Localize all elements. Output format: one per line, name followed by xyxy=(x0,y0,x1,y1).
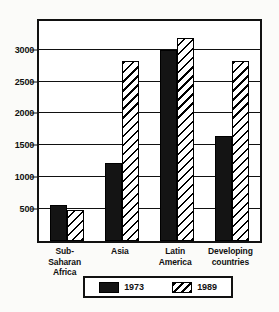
y-tick-label-2500: 2500 xyxy=(0,77,34,87)
gridline-3000 xyxy=(39,49,260,50)
bar-1973-cat3 xyxy=(215,136,232,241)
bar-1989-cat1 xyxy=(122,61,139,241)
y-tick-label-2000: 2000 xyxy=(0,108,34,118)
plot-area xyxy=(39,21,260,241)
legend-label-1989: 1989 xyxy=(197,282,217,292)
bar-1989-cat3 xyxy=(232,61,249,241)
gridline-2000 xyxy=(39,112,260,113)
y-tick-label-1500: 1500 xyxy=(0,140,34,150)
x-category-label-3: Developingcountries xyxy=(203,246,258,267)
y-tick-label-1000: 1000 xyxy=(0,172,34,182)
x-category-label-0: Sub-SaharanAfrica xyxy=(37,246,92,278)
bar-1989-cat2 xyxy=(177,38,194,241)
legend-label-1973: 1973 xyxy=(124,282,144,292)
legend-swatch-1989-icon xyxy=(172,282,192,293)
chart-figure: 50010001500200025003000 Sub-SaharanAfric… xyxy=(0,0,279,312)
plot-frame xyxy=(37,19,262,243)
y-tick-label-500: 500 xyxy=(0,204,34,214)
y-tick-label-3000: 3000 xyxy=(0,45,34,55)
bar-1989-cat0 xyxy=(67,210,84,241)
legend-entry-1989: 1989 xyxy=(172,282,217,293)
bar-1973-cat1 xyxy=(105,163,122,241)
legend-swatch-1973-icon xyxy=(99,282,119,293)
x-category-label-2: LatinAmerica xyxy=(148,246,203,267)
bar-1973-cat2 xyxy=(160,50,177,241)
legend-entry-1973: 1973 xyxy=(99,282,144,293)
x-category-label-1: Asia xyxy=(92,246,147,257)
chart-legend: 1973 1989 xyxy=(83,276,233,298)
gridline-2500 xyxy=(39,81,260,82)
bar-1973-cat0 xyxy=(50,205,67,241)
